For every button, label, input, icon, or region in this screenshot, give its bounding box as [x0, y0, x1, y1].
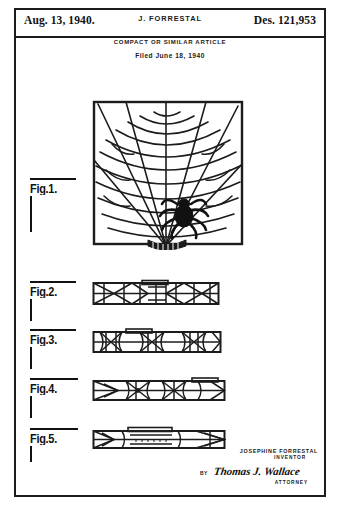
patent-title: COMPACT OR SIMILAR ARTICLE — [16, 39, 324, 45]
figure-label-3-overline — [30, 329, 76, 331]
figure-4-compact-bottom — [92, 372, 226, 408]
figure-label-5: Fig.5. — [30, 431, 57, 445]
patent-drawing-page: Aug. 13, 1940. J. FORRESTAL Des. 121,953… — [0, 0, 340, 511]
figure-label-4-leader — [30, 396, 32, 418]
fig4-hinge-pivot — [136, 388, 141, 393]
fig5-detail-lines — [94, 431, 225, 448]
attorney-signature-name: Thomas J. Wallace — [213, 465, 301, 477]
fig4-web-pattern — [94, 381, 225, 400]
inventor-signature-name: JOSEPHINE FORRESTAL — [206, 448, 318, 454]
figure-label-3-leader — [30, 347, 32, 369]
fig3-web-pattern — [94, 332, 221, 352]
figure-label-2-overline — [30, 281, 76, 283]
patent-header: Aug. 13, 1940. J. FORRESTAL Des. 121,953… — [16, 10, 324, 62]
fig5-clasp — [128, 428, 172, 432]
figure-label-5-overline — [30, 428, 78, 430]
figure-label-1-leader — [30, 196, 32, 232]
inventor-role-label: INVENTOR — [206, 455, 318, 460]
figure-1-spider-web-compact — [92, 100, 244, 250]
figure-label-1-overline — [30, 178, 76, 180]
signature-block: JOSEPHINE FORRESTAL INVENTOR BY Thomas J… — [206, 448, 318, 485]
figure-label-2-leader — [30, 299, 32, 321]
figure-label-4: Fig.4. — [30, 381, 57, 395]
patent-number: Des. 121,953 — [254, 14, 316, 26]
figure-label-5-leader — [30, 446, 32, 462]
by-label: BY — [200, 470, 208, 476]
filing-date: Filed June 18, 1940 — [16, 52, 324, 59]
spider-figure — [160, 199, 208, 238]
web-lines — [94, 102, 242, 246]
figure-3-compact-elevation — [92, 324, 222, 360]
fig2-web-pattern — [94, 283, 219, 304]
figure-label-4-overline — [30, 378, 78, 380]
figure-label-3: Fig.3. — [30, 332, 57, 346]
figure-label-2: Fig.2. — [30, 284, 57, 298]
header-divider-rule — [16, 36, 324, 38]
figure-2-compact-elevation — [92, 277, 220, 311]
figure-label-1: Fig.1. — [30, 181, 57, 195]
